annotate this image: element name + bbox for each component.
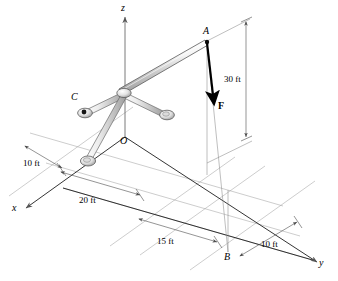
dimension-15ft-line xyxy=(139,219,217,242)
y-axis-label: y xyxy=(319,258,323,268)
member-hub-to-right-foot xyxy=(124,93,165,117)
force-label-f: F xyxy=(218,101,224,111)
dimension-line-30ft xyxy=(241,17,252,141)
projection-lines xyxy=(207,19,252,252)
coordinate-axes xyxy=(26,17,317,262)
dimension-label-10ft-right: 10 ft xyxy=(261,240,278,249)
support-point-c-dot xyxy=(82,110,87,115)
point-c-label: C xyxy=(71,92,78,102)
dimension-label-15ft: 15 ft xyxy=(157,237,174,246)
hub-joint xyxy=(117,88,131,97)
dimension-label-20ft: 20 ft xyxy=(79,196,96,205)
base-plane-outline xyxy=(63,188,316,261)
z-axis-label: z xyxy=(121,3,125,13)
statics-diagram-figure: z x y A B C O F 30 ft 10 ft 20 ft 15 ft … xyxy=(0,0,338,281)
point-a-label: A xyxy=(203,26,209,36)
point-b-label: B xyxy=(224,252,230,262)
dimension-label-10ft-left: 10 ft xyxy=(23,159,40,168)
y-axis-line xyxy=(125,137,317,262)
x-axis-line xyxy=(26,137,125,208)
force-vector-f-arrow xyxy=(207,43,214,104)
x-axis-label: x xyxy=(12,203,16,213)
origin-label: O xyxy=(120,136,127,146)
boom-structure xyxy=(78,40,210,166)
dimension-label-30ft: 30 ft xyxy=(224,75,241,84)
dimension-20ft-line xyxy=(61,172,140,195)
